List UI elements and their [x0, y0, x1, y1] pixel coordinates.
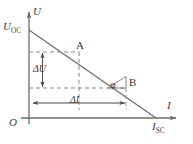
label-i-axis: I [167, 100, 171, 111]
source-characteristic-figure: UOC U I ISC O A B ΔU ΔI φ [0, 0, 193, 144]
label-point-a: A [76, 40, 84, 51]
label-angle-phi: φ [110, 80, 116, 90]
label-delta-u: ΔU [33, 64, 46, 74]
label-point-b: B [129, 77, 136, 88]
label-origin: O [9, 117, 17, 128]
label-u-axis: U [33, 6, 41, 17]
label-delta-i: ΔI [70, 95, 79, 105]
label-short-circuit-current: ISC [152, 121, 165, 135]
characteristic-line [29, 30, 156, 118]
label-open-circuit-voltage: UOC [3, 21, 21, 35]
